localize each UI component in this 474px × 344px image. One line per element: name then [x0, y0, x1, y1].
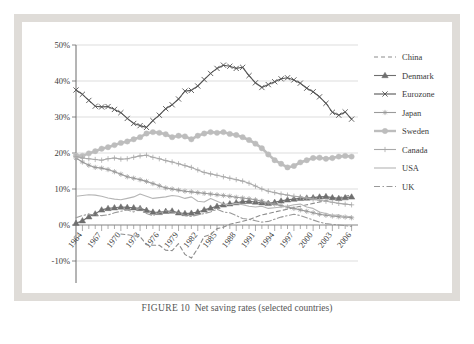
legend-label: USA — [402, 163, 420, 173]
x-tick-label: 1976 — [143, 230, 161, 250]
y-tick-label: 40% — [54, 76, 70, 86]
x-tick-label: 2003 — [316, 230, 334, 250]
legend-item-japan[interactable]: Japan — [374, 108, 422, 118]
y-tick-label: 10% — [54, 184, 70, 194]
x-tick-label: 2006 — [335, 230, 353, 250]
figure-frame: -10%0%10%20%30%40%50%1964196719701973197… — [14, 14, 460, 301]
y-tick-label: -10% — [52, 256, 70, 266]
line-chart: -10%0%10%20%30%40%50%1964196719701973197… — [22, 22, 452, 293]
legend-label: Japan — [402, 108, 422, 118]
figure-container: -10%0%10%20%30%40%50%1964196719701973197… — [0, 0, 474, 344]
x-tick-label: 1982 — [181, 230, 199, 250]
legend-item-china[interactable]: China — [374, 52, 423, 62]
legend-item-uk[interactable]: UK — [374, 182, 415, 192]
legend-item-denmark[interactable]: Denmark — [374, 71, 434, 81]
y-tick-label: 0% — [59, 220, 70, 230]
series-denmark — [73, 193, 355, 225]
caption-number: 10 — [180, 303, 190, 313]
x-tick-label: 1994 — [258, 229, 277, 249]
legend-label: UK — [402, 182, 415, 192]
x-tick-label: 1964 — [66, 229, 85, 249]
x-tick-label: 1991 — [239, 230, 257, 250]
x-tick-label: 1973 — [123, 230, 141, 250]
caption-text: Net saving rates (selected countries) — [195, 303, 333, 313]
legend-item-canada[interactable]: Canada — [374, 145, 428, 155]
x-tick-label: 1988 — [219, 230, 237, 250]
legend-item-usa[interactable]: USA — [374, 163, 420, 173]
x-tick-label: 1967 — [85, 230, 103, 250]
figure-inner-panel: -10%0%10%20%30%40%50%1964196719701973197… — [22, 22, 452, 293]
legend-label: Sweden — [402, 126, 430, 136]
legend-label: Canada — [402, 145, 428, 155]
series-eurozone — [73, 63, 354, 130]
legend-label: China — [402, 52, 423, 62]
y-tick-label: 50% — [54, 40, 70, 50]
legend-label: Eurozone — [402, 89, 435, 99]
series-uk — [76, 208, 352, 227]
series-sweden — [73, 129, 354, 170]
y-tick-label: 30% — [54, 112, 70, 122]
caption-label: FIGURE — [142, 303, 179, 313]
x-tick-label: 1970 — [104, 230, 122, 250]
legend-item-sweden[interactable]: Sweden — [374, 126, 430, 136]
legend-item-eurozone[interactable]: Eurozone — [374, 89, 435, 99]
y-tick-label: 20% — [54, 148, 70, 158]
chart-plot-area: -10%0%10%20%30%40%50%1964196719701973197… — [22, 22, 452, 293]
x-tick-label: 2000 — [296, 230, 314, 250]
figure-caption: FIGURE10Net saving rates (selected count… — [0, 303, 474, 313]
legend-label: Denmark — [402, 71, 434, 81]
x-tick-label: 1979 — [162, 230, 180, 250]
x-tick-label: 1997 — [277, 230, 295, 250]
